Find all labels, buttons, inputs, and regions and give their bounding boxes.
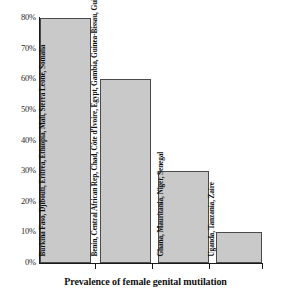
x-axis-tick bbox=[152, 264, 153, 269]
y-axis-tick-label-60: 60% bbox=[0, 74, 36, 83]
y-tick-text: 30% bbox=[4, 166, 36, 175]
bar-label-line: Niger, Senegal bbox=[156, 152, 165, 195]
x-axis-tick bbox=[95, 264, 96, 269]
bar-2[interactable]: Benin, Central African Rep, Chad, Côte d… bbox=[100, 79, 151, 263]
x-axis-tick bbox=[262, 264, 263, 269]
chart-title: Prevalence of female genital mutilation bbox=[0, 276, 291, 287]
y-axis-tick-label-10: 10% bbox=[0, 227, 36, 236]
bar-4[interactable]: Uganda, Tanzania, Zaire bbox=[216, 232, 262, 263]
y-tick-text: 50% bbox=[4, 105, 36, 114]
y-axis-tick-label-30: 30% bbox=[0, 166, 36, 175]
x-axis-line bbox=[39, 263, 263, 264]
bar-label-line: Uganda, bbox=[207, 232, 216, 257]
y-tick-text: 60% bbox=[4, 74, 36, 83]
bar-label-line: Burkina Faso, Djibouti, Eritrea, Ethiopi… bbox=[38, 131, 47, 257]
bar-label-line: Ghana, Mauritania, bbox=[156, 197, 165, 257]
y-tick-text: 0% bbox=[4, 258, 36, 267]
bar-label-line: Mali, Sierra Leone, Somalia bbox=[38, 45, 47, 129]
y-axis-tick-label-50: 50% bbox=[0, 105, 36, 114]
x-axis-tick bbox=[209, 264, 210, 269]
chart-container: 80% 70% 60% 50% 40% 30% 20% 10% bbox=[0, 0, 291, 295]
bar-label-line: Zaire bbox=[207, 183, 216, 199]
y-tick-text: 70% bbox=[4, 44, 36, 53]
y-axis-tick-label-20: 20% bbox=[0, 197, 36, 206]
y-axis-tick-label-70: 70% bbox=[0, 44, 36, 53]
y-tick-text: 20% bbox=[4, 197, 36, 206]
y-tick-text: 10% bbox=[4, 227, 36, 236]
bar-3[interactable]: Ghana, Mauritania, Niger, Senegal bbox=[158, 171, 209, 263]
y-axis-tick-label-0: 0% bbox=[0, 258, 36, 267]
y-tick-text: 40% bbox=[4, 136, 36, 145]
bar-label-line: d'Ivoire, Egypt, Gambia, Guinea-Bissau, bbox=[90, 13, 99, 135]
y-tick-text: 80% bbox=[4, 13, 36, 22]
y-axis-tick-label-40: 40% bbox=[0, 136, 36, 145]
plot-area: 80% 70% 60% 50% 40% 30% 20% 10% bbox=[0, 0, 291, 295]
y-axis-tick-label-80: 80% bbox=[0, 13, 36, 22]
bar-label-line: Benin, Central African Rep, Chad, Côte bbox=[90, 137, 99, 257]
bar-label-line: Tanzania, bbox=[207, 201, 216, 230]
bar-1[interactable]: Burkina Faso, Djibouti, Eritrea, Ethiopi… bbox=[40, 18, 91, 263]
bar-label-line: Guinea, Kenya, Liberia, Nigeria, Togo bbox=[90, 0, 99, 11]
